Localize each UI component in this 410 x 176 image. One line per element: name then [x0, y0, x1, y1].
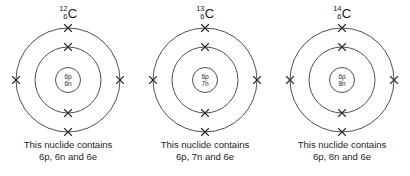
- orbital-diagram: 6p 6n: [7, 24, 129, 136]
- caption-line-1: This nuclide contains: [24, 139, 113, 151]
- nuclide-caption: This nuclide contains 6p, 8n and 6e: [298, 139, 387, 164]
- orbital-diagram: 6p 8n: [281, 24, 403, 136]
- caption-line-2: 6p, 8n and 6e: [298, 151, 387, 163]
- element-symbol: C: [68, 7, 77, 20]
- nucleus-neutrons: 6n: [64, 80, 72, 87]
- atom-panel-carbon-13: 13 6 C 6p 7n: [137, 0, 273, 176]
- element-symbol: C: [205, 7, 214, 20]
- isotope-numbers: 13 6: [196, 5, 204, 21]
- nuclide-caption: This nuclide contains 6p, 7n and 6e: [161, 139, 250, 164]
- isotope-numbers: 12 6: [59, 5, 67, 21]
- caption-line-2: 6p, 6n and 6e: [24, 151, 113, 163]
- atomic-number: 6: [337, 13, 341, 21]
- element-symbol: C: [342, 7, 351, 20]
- atom-panel-carbon-12: 12 6 C 6p 6n: [0, 0, 136, 176]
- nuclide-caption: This nuclide contains 6p, 6n and 6e: [24, 139, 113, 164]
- isotope-symbol: 12 6 C: [59, 2, 77, 24]
- isotope-symbol: 13 6 C: [196, 2, 214, 24]
- isotope-symbol: 14 6 C: [333, 2, 351, 24]
- nucleus-neutrons: 8n: [338, 80, 346, 87]
- caption-line-1: This nuclide contains: [298, 139, 387, 151]
- isotope-numbers: 14 6: [333, 5, 341, 21]
- atom-panel-carbon-14: 14 6 C 6p 8n: [274, 0, 410, 176]
- isotope-diagram-board: 12 6 C 6p 6n: [0, 0, 410, 176]
- atomic-number: 6: [63, 13, 67, 21]
- caption-line-2: 6p, 7n and 6e: [161, 151, 250, 163]
- atomic-number: 6: [200, 13, 204, 21]
- caption-line-1: This nuclide contains: [161, 139, 250, 151]
- orbital-diagram: 6p 7n: [144, 24, 266, 136]
- nucleus-neutrons: 7n: [201, 80, 209, 87]
